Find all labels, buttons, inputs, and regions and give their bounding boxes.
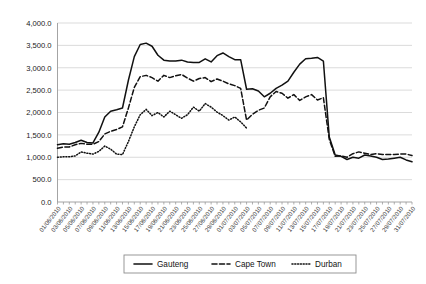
y-tick-label: 3,500.0 [26,41,51,50]
legend-label-gauteng: Gauteng [157,260,189,269]
chart-canvas: 0.0500.01,000.01,500.02,000.02,500.03,00… [0,0,426,284]
y-tick-label: 2,000.0 [26,108,51,117]
y-tick-label: 1,500.0 [26,131,51,140]
legend-label-cape-town: Cape Town [235,260,276,269]
legend-label-durban: Durban [315,260,342,269]
y-axis-tick-labels: 0.0500.01,000.01,500.02,000.02,500.03,00… [26,19,51,207]
y-tick-label: 4,000.0 [26,19,51,28]
y-tick-label: 3,000.0 [26,64,51,73]
y-tick-label: 0.0 [41,198,52,207]
series-line-gauteng [58,43,413,162]
data-series-group [58,43,413,162]
x-axis-tick-labels: 01/06/201003/06/201005/06/201007/06/2010… [37,202,416,233]
y-tick-label: 1,000.0 [26,153,51,162]
chart-legend: GautengCape TownDurban [124,255,356,273]
y-tick-label: 2,500.0 [26,86,51,95]
y-tick-label: 500.0 [32,175,51,184]
series-line-cape-town [58,74,413,157]
gridlines [58,23,413,180]
series-line-durban [58,104,247,158]
line-chart: 0.0500.01,000.01,500.02,000.02,500.03,00… [0,0,426,284]
